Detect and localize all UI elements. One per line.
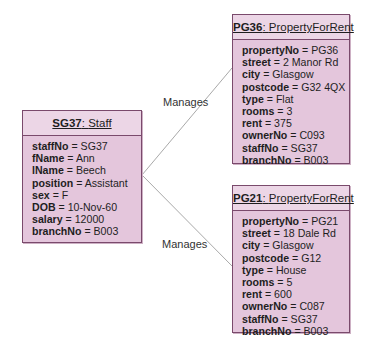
attribute-row: DOB = 10-Nov-60 xyxy=(32,201,141,213)
object-class: : Staff xyxy=(82,117,112,129)
object-class: : PropertyForRent xyxy=(262,21,353,33)
property-attributes: propertyNo = PG36 street = 2 Manor Rd ci… xyxy=(233,40,349,166)
object-id: PG21 xyxy=(233,192,262,204)
property-attributes: propertyNo = PG21 street = 18 Dale Rd ci… xyxy=(233,211,349,337)
attribute-row: propertyNo = PG36 xyxy=(242,44,349,56)
attribute-row: sex = F xyxy=(32,189,141,201)
property-object-header: PG21: PropertyForRent xyxy=(233,186,349,211)
attribute-row: rooms = 3 xyxy=(242,105,349,117)
attribute-row: rooms = 5 xyxy=(242,276,349,288)
property-pg21-object-box: PG21: PropertyForRent propertyNo = PG21 … xyxy=(232,185,350,333)
attribute-row: ownerNo = C087 xyxy=(242,300,349,312)
attribute-row: postcode = G12 xyxy=(242,252,349,264)
link-line-pg36 xyxy=(142,68,232,175)
attribute-row: staffNo = SG37 xyxy=(242,142,349,154)
attribute-row: city = Glasgow xyxy=(242,68,349,80)
staff-object-box: SG37: Staff staffNo = SG37 fName = Ann l… xyxy=(22,110,142,243)
attribute-row: type = Flat xyxy=(242,93,349,105)
link-line-pg21 xyxy=(142,175,232,266)
attribute-row: fName = Ann xyxy=(32,152,141,164)
attribute-row: branchNo = B003 xyxy=(32,225,141,237)
link-label-manages-pg21: Manages xyxy=(162,238,207,250)
attribute-row: branchNo = B003 xyxy=(242,325,349,337)
attribute-row: staffNo = SG37 xyxy=(242,313,349,325)
attribute-row: street = 18 Dale Rd xyxy=(242,227,349,239)
attribute-row: ownerNo = C093 xyxy=(242,129,349,141)
attribute-row: rent = 600 xyxy=(242,288,349,300)
attribute-row: type = House xyxy=(242,264,349,276)
attribute-row: lName = Beech xyxy=(32,164,141,176)
attribute-row: branchNo = B003 xyxy=(242,154,349,166)
attribute-row: postcode = G32 4QX xyxy=(242,81,349,93)
staff-object-header: SG37: Staff xyxy=(23,111,141,136)
attribute-row: street = 2 Manor Rd xyxy=(242,56,349,68)
object-id: PG36 xyxy=(233,21,262,33)
property-pg36-object-box: PG36: PropertyForRent propertyNo = PG36 … xyxy=(232,14,350,164)
attribute-row: rent = 375 xyxy=(242,117,349,129)
object-id: SG37 xyxy=(52,117,81,129)
link-label-manages-pg36: Manages xyxy=(163,96,208,108)
attribute-row: propertyNo = PG21 xyxy=(242,215,349,227)
attribute-row: position = Assistant xyxy=(32,177,141,189)
object-class: : PropertyForRent xyxy=(262,192,353,204)
staff-attributes: staffNo = SG37 fName = Ann lName = Beech… xyxy=(23,136,141,238)
attribute-row: city = Glasgow xyxy=(242,239,349,251)
attribute-row: staffNo = SG37 xyxy=(32,140,141,152)
attribute-row: salary = 12000 xyxy=(32,213,141,225)
property-object-header: PG36: PropertyForRent xyxy=(233,15,349,40)
